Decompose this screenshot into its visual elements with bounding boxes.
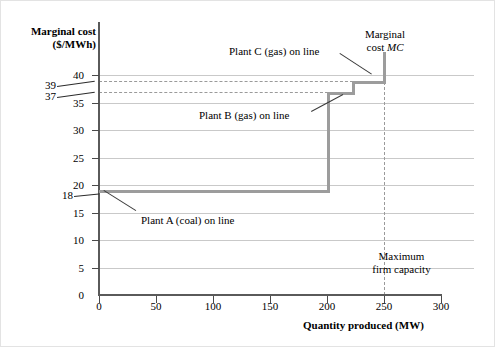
y-axis-title-line2: ($/MWh)	[18, 38, 96, 51]
y-tick-40	[92, 75, 99, 76]
x-tick-label-300: 300	[421, 301, 461, 312]
y-tick-30	[92, 130, 99, 131]
annotation-plant-b: Plant B (gas) on line	[199, 109, 289, 122]
annotation-capacity-line1: Maximum	[349, 250, 454, 263]
annotation-max-firm-capacity: Maximum firm capacity	[349, 250, 454, 276]
reference-line-39	[99, 81, 353, 82]
y-tick-5	[92, 268, 99, 269]
gridline-20	[99, 185, 474, 186]
y-tick-label-25: 25	[44, 153, 84, 164]
x-tick-label-50: 50	[136, 301, 176, 312]
y-tick-label-30: 30	[44, 125, 84, 136]
reference-line-37	[99, 92, 328, 93]
y-tick-35	[92, 103, 99, 104]
x-tick-label-250: 250	[364, 301, 404, 312]
x-axis-title: Quantity produced (MW)	[303, 319, 424, 332]
y-axis-title-line1: Marginal cost	[18, 25, 96, 38]
annotation-mc-symbol: MC	[387, 41, 404, 53]
y-axis	[98, 22, 100, 296]
y-axis-title: Marginal cost ($/MWh)	[18, 25, 96, 51]
x-tick-label-100: 100	[193, 301, 233, 312]
y-callout-label-18: 18	[33, 190, 73, 201]
y-tick-label-5: 5	[44, 263, 84, 274]
y-tick-15	[92, 213, 99, 214]
y-tick-20	[92, 185, 99, 186]
marginal-cost-step-chart: 40 35 30 25 20 15 10 5 0 39 37 18 0 50 1…	[0, 0, 496, 348]
y-callout-leader-18	[74, 193, 99, 197]
annotation-mc-cost-text: cost	[367, 41, 387, 53]
y-tick-10	[92, 240, 99, 241]
mc-step-plant-c	[352, 81, 386, 84]
y-tick-label-15: 15	[44, 208, 84, 219]
annotation-mc-line1: Marginal	[345, 28, 425, 41]
annotation-plant-c: Plant C (gas) on line	[229, 45, 319, 58]
x-tick-label-150: 150	[250, 301, 290, 312]
annotation-mc-line2: cost MC	[345, 41, 425, 54]
annotation-plant-c-pointer	[339, 53, 371, 75]
x-tick-label-0: 0	[79, 301, 119, 312]
mc-step-plant-a	[99, 190, 330, 193]
annotation-plant-a: Plant A (coal) on line	[141, 214, 234, 227]
y-tick-25	[92, 158, 99, 159]
gridline-10	[99, 240, 474, 241]
gridline-30	[99, 130, 474, 131]
annotation-marginal-cost-mc: Marginal cost MC	[345, 28, 425, 54]
gridline-25	[99, 158, 474, 159]
y-callout-label-37: 37	[16, 91, 56, 102]
gridline-35	[99, 103, 474, 104]
y-tick-label-0: 0	[44, 290, 84, 301]
annotation-plant-a-pointer	[103, 190, 136, 211]
mc-terminal-vertical	[383, 52, 386, 84]
x-tick-label-200: 200	[307, 301, 347, 312]
y-callout-leader-39	[57, 81, 95, 87]
mc-riser-a-to-b	[327, 92, 330, 193]
annotation-capacity-line2: firm capacity	[349, 263, 454, 276]
gridline-40	[99, 75, 474, 76]
y-tick-label-10: 10	[44, 235, 84, 246]
